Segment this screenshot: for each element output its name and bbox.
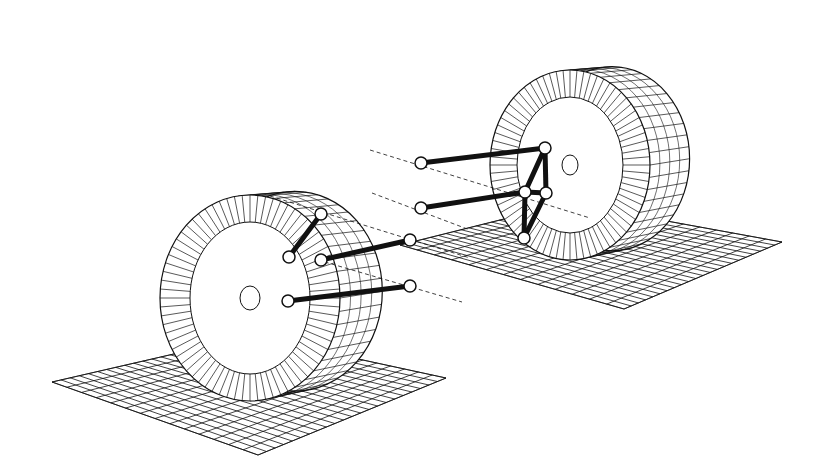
joint-j11 [540, 187, 552, 199]
joint-j12 [518, 232, 530, 244]
joint-j2 [283, 251, 295, 263]
joint-j3 [315, 254, 327, 266]
joint-j7 [415, 157, 427, 169]
joint-j6 [404, 280, 416, 292]
joint-j5 [282, 295, 294, 307]
joint-j9 [539, 142, 551, 154]
joint-j1 [315, 208, 327, 220]
suspension-diagram: Multi-link suspension wireframe model [0, 0, 824, 471]
joint-j8 [415, 202, 427, 214]
front-left-wheel [160, 191, 382, 401]
joint-j4 [404, 234, 416, 246]
diagram-canvas [0, 0, 824, 471]
rear-right-wheel [490, 67, 690, 260]
joint-j10 [519, 186, 531, 198]
